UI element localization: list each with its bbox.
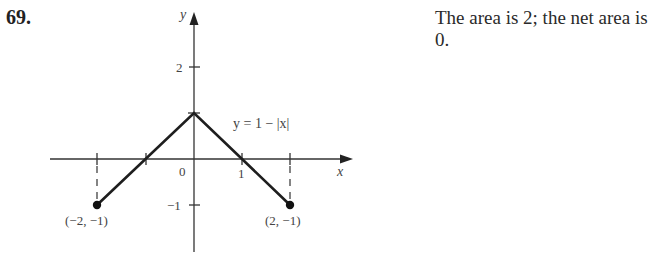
y-axis-label: y	[178, 7, 187, 22]
endpoint-left	[93, 201, 101, 209]
y-tick-label-2: 2	[176, 60, 183, 75]
point-label-right: (2, −1)	[265, 213, 301, 228]
y-axis-arrow-icon	[190, 12, 199, 25]
x-axis	[50, 155, 353, 164]
origin-label: 0	[179, 164, 186, 179]
x-axis-label: x	[336, 164, 344, 179]
x-tick-label-1: 1	[238, 166, 245, 181]
y-axis	[190, 12, 199, 252]
function-graph: y x 2 −1 0 1 y = 1 − |x| (−2, −1) (2, −1…	[0, 0, 652, 258]
point-label-left: (−2, −1)	[65, 213, 108, 228]
endpoint-right	[286, 201, 294, 209]
function-label: y = 1 − |x|	[233, 116, 289, 131]
y-tick-label-neg1: −1	[167, 198, 181, 213]
x-axis-arrow-icon	[340, 155, 353, 164]
